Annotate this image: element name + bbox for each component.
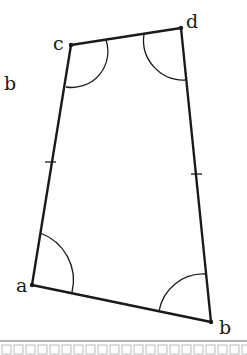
angle-arc-a — [40, 233, 73, 292]
angle-arc-c — [66, 40, 108, 87]
side-label-b: b — [4, 72, 16, 94]
side-cd — [71, 28, 181, 45]
vertex-b-dot — [209, 320, 213, 324]
side-ac — [32, 45, 71, 285]
angle-arc-d — [144, 34, 185, 80]
vertex-label-b: b — [219, 316, 231, 338]
vertex-label-c: c — [53, 32, 64, 54]
vertex-label-a: a — [16, 274, 27, 296]
angle-arc-b — [159, 274, 205, 311]
border-pattern — [2, 345, 247, 354]
vertex-a-dot — [30, 283, 34, 287]
vertex-label-d: d — [186, 10, 198, 32]
vertex-d-dot — [179, 26, 183, 30]
side-ba — [32, 285, 211, 322]
vertex-c-dot — [69, 43, 73, 47]
quadrilateral-diagram: a b c d b — [0, 0, 247, 355]
